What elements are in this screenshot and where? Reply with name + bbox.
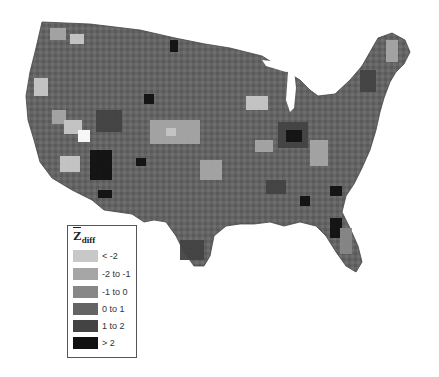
legend-item: 0 to 1 — [73, 303, 125, 315]
legend-item: 1 to 2 — [73, 320, 125, 332]
legend-title: Zdiff — [73, 228, 95, 245]
legend-item: < -2 — [73, 250, 118, 262]
legend-swatch — [73, 337, 98, 349]
map-legend: Zdiff < -2 -2 to -1 -1 to 0 0 to 1 1 to … — [67, 225, 137, 358]
legend-swatch — [73, 320, 98, 332]
legend-item: -1 to 0 — [73, 286, 128, 298]
legend-swatch — [73, 268, 98, 280]
legend-swatch — [73, 303, 98, 315]
legend-item: -2 to -1 — [73, 268, 131, 280]
legend-item: > 2 — [73, 337, 115, 349]
legend-swatch — [73, 250, 98, 262]
us-county-map — [0, 0, 439, 377]
legend-swatch — [73, 286, 98, 298]
